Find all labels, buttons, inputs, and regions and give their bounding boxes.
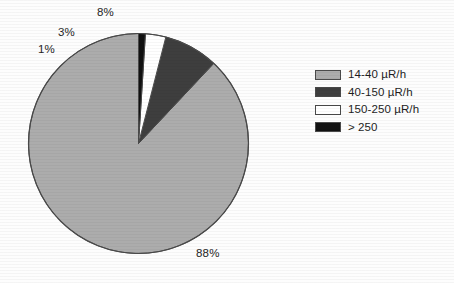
chart-legend: 14-40 µR/h 40-150 µR/h 150-250 µR/h > 25… <box>315 66 447 136</box>
legend-label-40-150: 40-150 µR/h <box>348 87 413 99</box>
legend-label-14-40: 14-40 µR/h <box>348 69 406 81</box>
pie-chart-figure: 88% 8% 3% 1% 14-40 µR/h 40-150 µR/h 150-… <box>0 0 454 283</box>
legend-item-150-250: 150-250 µR/h <box>315 101 447 119</box>
legend-item-over-250: > 250 <box>315 119 447 137</box>
slice-label-150-250: 3% <box>58 27 75 39</box>
slice-label-over-250: 1% <box>38 44 55 56</box>
legend-item-14-40: 14-40 µR/h <box>315 66 447 84</box>
legend-label-150-250: 150-250 µR/h <box>348 104 419 116</box>
legend-item-40-150: 40-150 µR/h <box>315 84 447 102</box>
legend-swatch-icon-over-250 <box>315 122 341 132</box>
legend-swatch-icon-40-150 <box>315 87 341 97</box>
slice-label-40-150: 8% <box>97 7 114 19</box>
pie-chart-graphic <box>0 0 454 283</box>
legend-label-over-250: > 250 <box>348 122 378 134</box>
legend-swatch-icon-150-250 <box>315 105 341 115</box>
slice-label-14-40: 88% <box>196 248 220 260</box>
legend-swatch-icon-14-40 <box>315 70 341 80</box>
